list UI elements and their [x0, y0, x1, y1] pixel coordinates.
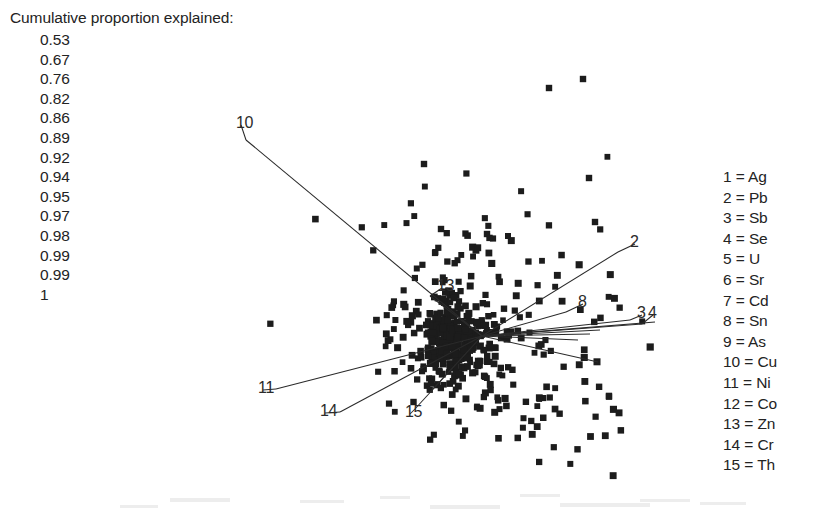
- scatter-point: [477, 405, 484, 412]
- scatter-point: [495, 435, 502, 442]
- scatter-point: [427, 311, 433, 317]
- scatter-point: [596, 384, 602, 390]
- scatter-point: [415, 299, 422, 306]
- scatter-point: [534, 403, 540, 409]
- scan-artifact: [430, 505, 500, 509]
- scatter-point: [529, 431, 536, 438]
- scatter-point: [408, 200, 414, 206]
- scatter-point: [552, 385, 558, 391]
- scatter-point: [465, 314, 471, 320]
- scatter-point: [481, 394, 487, 400]
- scatter-point: [543, 384, 550, 391]
- scatter-point: [472, 369, 478, 375]
- scatter-point: [464, 232, 471, 239]
- scatter-point: [647, 343, 654, 350]
- scatter-point: [587, 433, 594, 440]
- scatter-point: [474, 320, 481, 327]
- scatter-point: [447, 299, 453, 305]
- scatter-point: [414, 376, 420, 382]
- scatter-point: [381, 222, 387, 228]
- scatter-point: [526, 312, 532, 318]
- scatter-point: [496, 372, 502, 378]
- scatter-point: [576, 361, 583, 368]
- scatter-point: [502, 395, 509, 402]
- scatter-point: [419, 262, 425, 268]
- scatter-point: [561, 364, 567, 370]
- scatter-point: [411, 330, 418, 337]
- scatter-point: [391, 298, 397, 304]
- scatter-point: [607, 271, 614, 278]
- scatter-point: [375, 369, 381, 375]
- scatter-point: [496, 278, 503, 285]
- scatter-point: [484, 231, 490, 237]
- scatter-point: [422, 184, 428, 190]
- vector-label-13: 13: [437, 277, 455, 294]
- scatter-point: [532, 350, 538, 356]
- scatter-point: [467, 283, 474, 290]
- scatter-point: [464, 363, 471, 370]
- scatter-point: [485, 223, 491, 229]
- scatter-point: [567, 461, 573, 467]
- scatter-point: [521, 415, 527, 421]
- vector-label-14: 14: [320, 402, 338, 419]
- scatter-point: [484, 301, 490, 307]
- scatter-point: [485, 313, 491, 319]
- scatter-point: [492, 353, 499, 360]
- scatter-point: [267, 321, 273, 327]
- scatter-point: [491, 409, 498, 416]
- scatter-point: [463, 395, 470, 402]
- scatter-point: [392, 409, 398, 415]
- scatter-point: [312, 216, 319, 223]
- scatter-point: [486, 250, 493, 257]
- scatter-point: [597, 315, 604, 322]
- scan-artifact: [380, 496, 410, 499]
- scatter-point: [436, 316, 442, 322]
- scatter-point: [512, 308, 518, 314]
- scan-artifact: [700, 502, 746, 505]
- scatter-point: [448, 408, 454, 414]
- scatter-point: [559, 298, 566, 305]
- scatter-point: [391, 326, 397, 332]
- scatter-point: [581, 346, 588, 353]
- scatter-point: [440, 324, 447, 331]
- scatter-point: [482, 292, 488, 298]
- scatter-point: [404, 220, 410, 226]
- scatter-point: [540, 415, 547, 422]
- scatter-point: [535, 282, 541, 288]
- scatter-point: [552, 284, 558, 290]
- scan-artifact: [520, 494, 560, 497]
- scatter-point: [536, 394, 543, 401]
- scatter-point: [505, 233, 511, 239]
- loading-vector-cu: [246, 140, 482, 336]
- scatter-point: [525, 258, 531, 264]
- scatter-point: [460, 433, 466, 439]
- scatter-point: [468, 273, 475, 280]
- vector-label-11: 11: [258, 379, 274, 396]
- scatter-point: [473, 303, 480, 310]
- scatter-point: [546, 85, 552, 91]
- scan-artifact: [640, 499, 690, 502]
- scatter-point: [440, 296, 446, 302]
- scatter-point: [463, 170, 469, 176]
- scatter-point: [513, 292, 520, 299]
- vector-label-4: 4: [648, 304, 657, 321]
- scatter-point: [510, 382, 516, 388]
- scatter-point: [418, 354, 425, 361]
- scatter-point: [383, 344, 389, 350]
- scatter-point: [458, 252, 464, 258]
- scatter-point: [581, 378, 588, 385]
- scatter-point: [576, 261, 583, 268]
- scatter-point: [574, 446, 580, 452]
- scatter-point: [416, 312, 422, 318]
- scatter-point: [617, 305, 623, 311]
- scatter-point: [523, 399, 529, 405]
- scatter-point: [438, 226, 444, 232]
- scan-artifact: [560, 503, 650, 507]
- scatter-point: [610, 472, 617, 479]
- scatter-point: [597, 226, 603, 232]
- scatter-point: [392, 317, 398, 323]
- scatter-point: [482, 374, 489, 381]
- scatter-point: [586, 175, 592, 181]
- scatter-point: [482, 215, 488, 221]
- scatter-point: [491, 361, 498, 368]
